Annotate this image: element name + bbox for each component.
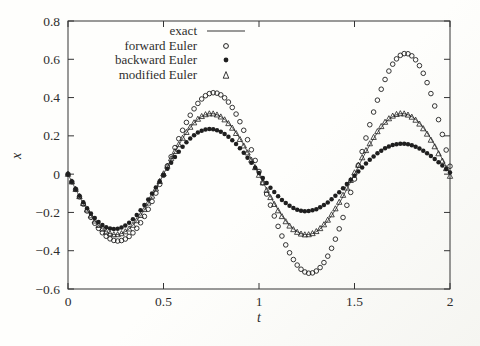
y-tick-label: −0.4 [36, 243, 61, 258]
data-point-open-circle [249, 147, 254, 152]
data-point-filled-circle [207, 127, 212, 132]
y-tick-label: −0.2 [36, 205, 61, 220]
legend-label-forward-euler: forward Euler [95, 39, 197, 53]
data-point-filled-circle [219, 130, 224, 135]
data-point-open-circle [410, 54, 415, 59]
data-point-open-circle [413, 58, 418, 63]
data-point-filled-circle [249, 160, 254, 165]
data-point-filled-circle [196, 130, 201, 135]
data-point-filled-circle [188, 136, 193, 141]
data-point-open-circle [367, 122, 372, 127]
data-point-filled-circle [410, 143, 415, 148]
data-point-filled-circle [276, 194, 281, 199]
data-point-open-circle [188, 113, 193, 118]
data-point-open-circle [383, 77, 388, 82]
filled-circle-icon [203, 54, 249, 66]
data-point-open-circle [440, 132, 445, 137]
data-point-open-circle [272, 214, 277, 219]
data-point-filled-circle [394, 142, 399, 147]
data-point-open-circle [230, 105, 235, 110]
data-point-open-circle [333, 237, 338, 242]
data-point-filled-circle [222, 132, 227, 137]
data-point-open-circle [291, 257, 296, 262]
data-point-filled-circle [165, 166, 170, 171]
data-point-filled-circle [299, 208, 304, 213]
data-point-open-circle [436, 117, 441, 122]
legend: exact forward Euler backward Euler modif… [95, 24, 249, 82]
x-tick-label: 1 [256, 294, 263, 309]
data-point-open-circle [199, 97, 204, 102]
data-point-open-circle [314, 269, 319, 274]
legend-item-forward-euler: forward Euler [95, 39, 249, 54]
data-point-filled-circle [440, 163, 445, 168]
legend-item-modified-euler: modified Euler [95, 68, 249, 83]
data-point-open-circle [341, 215, 346, 220]
y-axis-label: x [9, 153, 25, 159]
data-point-filled-circle [333, 194, 338, 199]
x-tick-label: 1.5 [346, 294, 363, 309]
data-point-open-circle [325, 254, 330, 259]
data-point-open-circle [337, 227, 342, 232]
data-point-open-circle [150, 199, 155, 204]
data-point-filled-circle [421, 148, 426, 153]
data-point-open-circle [444, 148, 449, 153]
data-point-filled-circle [379, 148, 384, 153]
data-point-open-circle [421, 71, 426, 76]
data-point-open-triangle [440, 158, 445, 163]
x-tick-label: 0 [65, 294, 72, 309]
data-point-filled-circle [226, 135, 231, 140]
data-point-filled-circle [287, 204, 292, 209]
data-point-open-circle [387, 69, 392, 74]
legend-label-modified-euler: modified Euler [95, 68, 197, 82]
data-point-filled-circle [326, 200, 331, 205]
data-point-filled-circle [432, 157, 437, 162]
data-point-open-circle [283, 243, 288, 248]
y-tick-label: 0.8 [43, 14, 60, 29]
x-tick-label: 2 [447, 294, 454, 309]
y-tick-label: 0.2 [43, 128, 60, 143]
y-tick-label: 0.6 [43, 52, 60, 67]
data-point-open-circle [245, 137, 250, 142]
legend-label-backward-euler: backward Euler [95, 53, 197, 67]
data-point-filled-circle [131, 217, 136, 222]
data-point-filled-circle [352, 173, 357, 178]
y-tick-label: 0.4 [43, 90, 60, 105]
data-point-filled-circle [234, 142, 239, 147]
data-point-filled-circle [268, 185, 273, 190]
data-point-open-circle [329, 246, 334, 251]
data-point-filled-circle [368, 158, 373, 163]
data-point-open-triangle [428, 137, 433, 142]
data-point-open-circle [226, 100, 231, 105]
data-point-open-circle [287, 250, 292, 255]
data-point-filled-circle [390, 143, 395, 148]
data-point-open-circle [432, 104, 437, 109]
data-point-open-circle [318, 265, 323, 270]
open-triangle-icon [203, 69, 249, 81]
data-point-filled-circle [387, 144, 392, 149]
data-point-open-circle [425, 80, 430, 85]
data-point-filled-circle [429, 154, 434, 159]
data-point-open-circle [234, 112, 239, 117]
data-point-filled-circle [192, 133, 197, 138]
data-point-open-circle [390, 62, 395, 67]
data-point-open-circle [429, 91, 434, 96]
x-tick-label: 0.5 [155, 294, 172, 309]
data-point-filled-circle [425, 151, 430, 156]
y-tick-label: 0 [53, 167, 60, 182]
data-point-open-circle [417, 63, 422, 68]
data-point-filled-circle [184, 140, 189, 145]
data-point-filled-circle [375, 151, 380, 156]
data-point-open-triangle [432, 144, 437, 149]
data-point-open-circle [184, 120, 189, 125]
data-point-open-circle [348, 190, 353, 195]
data-point-filled-circle [406, 142, 411, 147]
legend-item-exact: exact [95, 24, 249, 39]
data-point-filled-circle [127, 220, 132, 225]
data-point-open-circle [196, 101, 201, 106]
data-point-filled-circle [295, 207, 300, 212]
data-point-filled-circle [371, 154, 376, 159]
data-point-filled-circle [337, 190, 342, 195]
data-point-open-circle [394, 57, 399, 62]
x-axis-label: t [257, 310, 261, 326]
data-point-filled-circle [310, 208, 315, 213]
